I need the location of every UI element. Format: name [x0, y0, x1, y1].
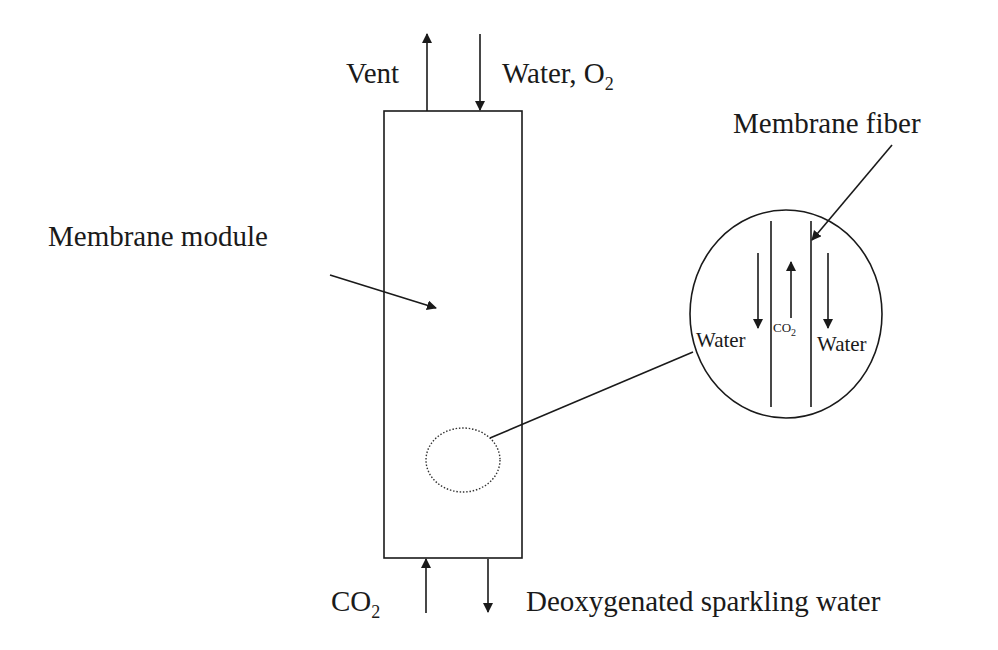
fiber-pointer-arrow	[812, 145, 892, 240]
membrane-module-box	[384, 111, 522, 558]
detail-connector-line	[490, 352, 693, 438]
co2-inlet-label: CO2	[331, 585, 380, 622]
inset-water-right-label: Water	[817, 332, 867, 356]
detail-region-ellipse	[426, 428, 500, 492]
membrane-module-label: Membrane module	[48, 220, 268, 252]
magnified-fiber-circle	[690, 210, 882, 418]
membrane-diagram: Vent Water, O2 Membrane module Membrane …	[0, 0, 998, 650]
inset-water-left-label: Water	[696, 328, 746, 352]
water-o2-label: Water, O2	[502, 57, 614, 94]
outlet-label: Deoxygenated sparkling water	[526, 585, 881, 617]
membrane-fiber-label: Membrane fiber	[733, 107, 921, 139]
vent-label: Vent	[346, 57, 399, 89]
inset-co2-label: CO2	[773, 320, 796, 338]
module-pointer-arrow	[330, 275, 436, 308]
